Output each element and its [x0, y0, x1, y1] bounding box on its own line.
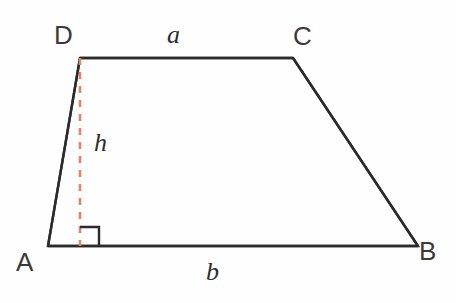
- height-label-h: h: [94, 130, 107, 156]
- side-label-a-top: a: [167, 22, 180, 48]
- vertex-label-b: B: [419, 238, 436, 264]
- side-ad-left-leg: [48, 58, 80, 246]
- side-cb-right-leg: [293, 58, 418, 246]
- side-label-b-bottom: b: [206, 259, 219, 285]
- trapezoid-figure: D C A B a b h: [0, 0, 456, 303]
- vertex-label-a: A: [16, 249, 33, 275]
- right-angle-icon: [80, 227, 99, 246]
- vertex-label-c: C: [293, 23, 312, 49]
- vertex-label-d: D: [54, 22, 73, 48]
